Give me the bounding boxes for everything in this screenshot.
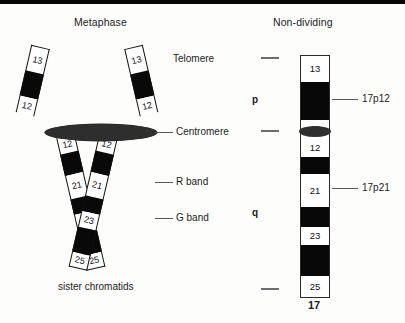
r-band-segment: 25 bbox=[300, 276, 330, 298]
band-number: 12 bbox=[18, 100, 37, 113]
leader-line-r-band bbox=[155, 182, 173, 183]
p-arm-tick-bottom bbox=[261, 130, 279, 132]
leader-line-17p21 bbox=[332, 188, 358, 189]
left-chromatid-upper-arm: 1312 bbox=[16, 45, 50, 117]
right-chromatid-upper-arm: 1312 bbox=[124, 45, 158, 117]
figure-canvas: Metaphase Non-dividing 1312 1312 1221232… bbox=[0, 0, 405, 323]
g-band-segment bbox=[300, 245, 330, 276]
r-band-segment: 13 bbox=[25, 45, 49, 75]
non-dividing-centromere bbox=[299, 126, 331, 137]
g-band-segment bbox=[300, 207, 330, 227]
leader-line-centromere bbox=[155, 132, 173, 133]
band-number: 12 bbox=[301, 143, 329, 153]
r-band-segment: 12 bbox=[300, 138, 330, 157]
g-band-segment bbox=[20, 70, 44, 100]
band-number: 21 bbox=[68, 179, 87, 192]
label-telomere: Telomere bbox=[173, 53, 214, 64]
g-band-segment bbox=[300, 157, 330, 174]
label-r-band: R band bbox=[176, 176, 208, 187]
band-number: 25 bbox=[301, 282, 329, 292]
r-band-segment: 21 bbox=[300, 174, 330, 207]
g-band-segment bbox=[300, 82, 330, 120]
r-band-segment: 12 bbox=[16, 96, 38, 117]
band-number: 21 bbox=[88, 179, 107, 192]
band-number: 13 bbox=[28, 54, 47, 67]
label-17p21: 17p21 bbox=[362, 182, 390, 193]
label-q-arm: q bbox=[252, 207, 258, 218]
label-17p12: 17p12 bbox=[362, 93, 390, 104]
band-number: 23 bbox=[80, 214, 99, 227]
non-dividing-chromosome: 131212212325 bbox=[300, 55, 330, 298]
label-sister-chromatids: sister chromatids bbox=[58, 281, 134, 292]
band-number: 13 bbox=[127, 54, 146, 67]
label-p-arm: p bbox=[252, 94, 258, 105]
panel-title-non-dividing: Non-dividing bbox=[273, 16, 333, 28]
label-centromere: Centromere bbox=[176, 126, 229, 137]
top-border-bar bbox=[0, 0, 405, 4]
r-band-segment: 12 bbox=[136, 96, 158, 117]
r-band-segment: 25 bbox=[69, 252, 91, 271]
r-band-segment: 23 bbox=[300, 227, 330, 245]
band-number: 25 bbox=[70, 254, 89, 267]
q-arm-tick-bottom bbox=[261, 288, 279, 290]
centromere-ellipse bbox=[45, 124, 157, 141]
label-g-band: G band bbox=[176, 212, 209, 223]
label-chromosome-number: 17 bbox=[308, 299, 320, 311]
band-number: 21 bbox=[301, 186, 329, 196]
r-band-segment: 13 bbox=[300, 55, 330, 82]
p-arm-tick-top bbox=[261, 57, 279, 59]
band-number: 12 bbox=[138, 100, 157, 113]
leader-line-g-band bbox=[155, 218, 173, 219]
band-number: 23 bbox=[301, 231, 329, 241]
panel-title-metaphase: Metaphase bbox=[74, 16, 127, 28]
band-number: 13 bbox=[301, 64, 329, 74]
leader-line-17p12 bbox=[332, 99, 358, 100]
